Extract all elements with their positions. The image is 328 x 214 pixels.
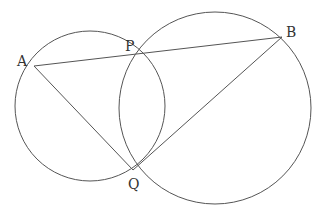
point-label-Q: Q [128, 176, 139, 192]
segment-A-Q [34, 66, 133, 170]
right-circle [119, 12, 311, 204]
geometry-diagram: A P B Q [0, 0, 328, 214]
segment-A-B [34, 37, 282, 66]
segment-B-Q [133, 37, 282, 170]
point-label-P: P [125, 38, 134, 54]
point-label-A: A [16, 53, 28, 69]
point-label-B: B [286, 24, 296, 40]
